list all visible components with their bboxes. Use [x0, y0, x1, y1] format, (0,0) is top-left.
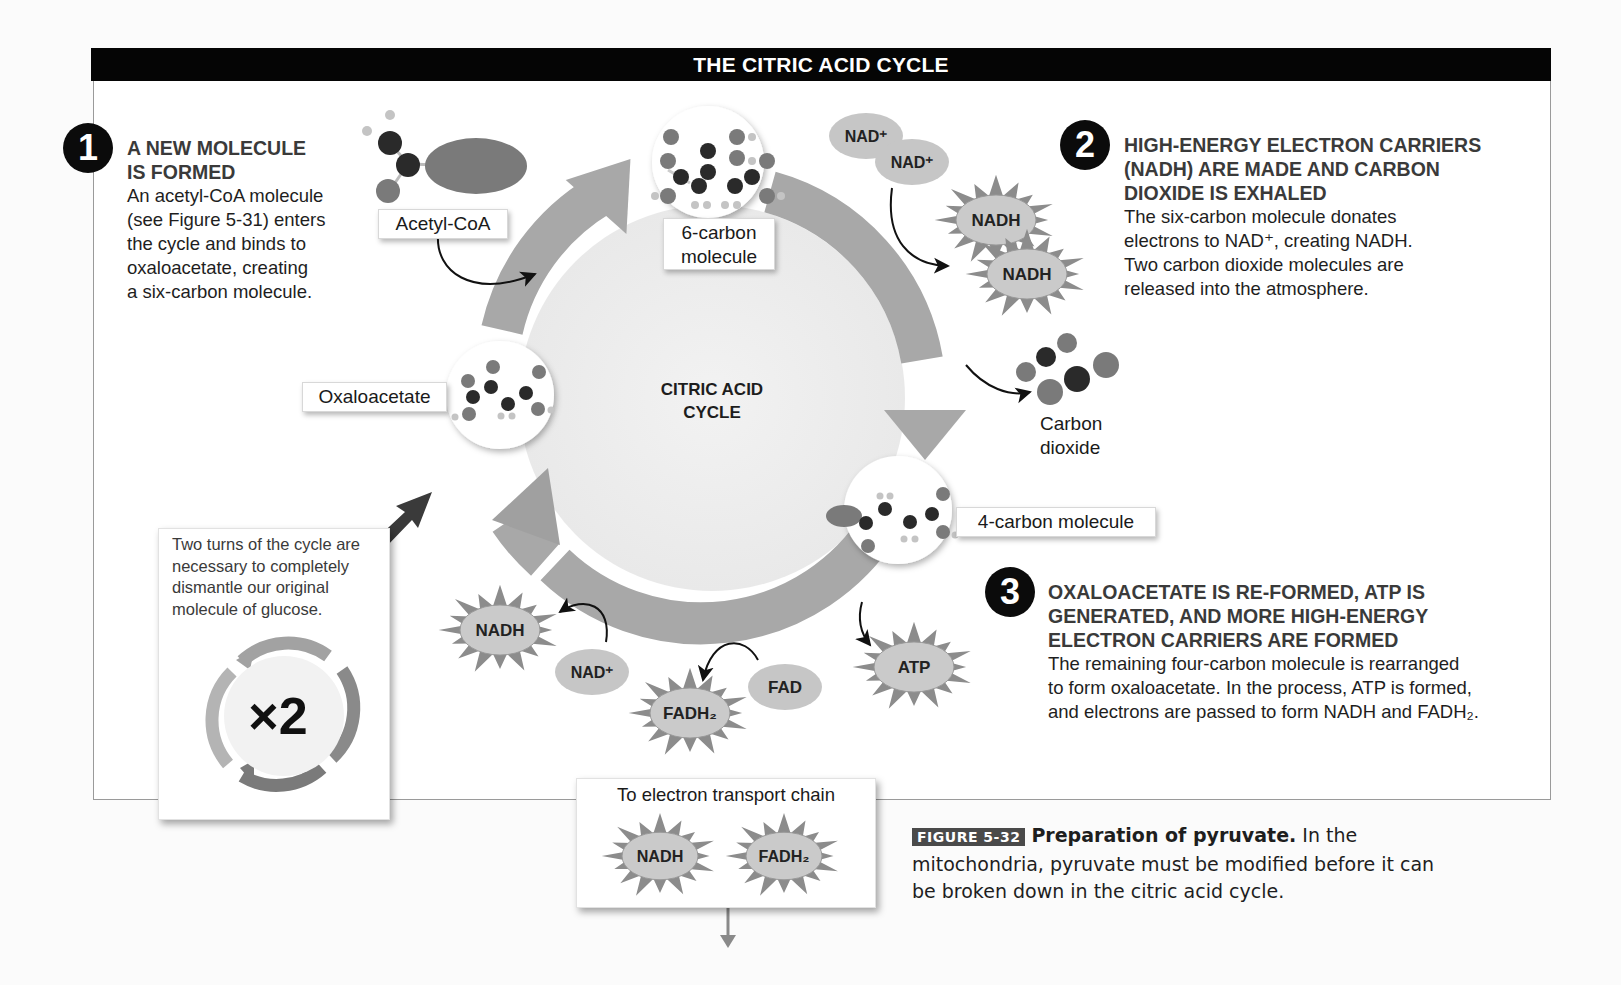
step-3-text: OXALOACETATE IS RE-FORMED, ATP IS GENERA… — [1048, 580, 1548, 724]
carbon-dioxide-line-2: dioxide — [1040, 436, 1102, 460]
caption-line-3: be broken down in the citric acid cycle. — [912, 878, 1552, 905]
step-1-body-line: the cycle and binds to — [127, 232, 367, 256]
six-carbon-molecule — [651, 106, 785, 218]
atp-arrow — [860, 602, 870, 645]
step-3-badge: 3 — [985, 567, 1035, 617]
step-1-heading: A NEW MOLECULE IS FORMED — [127, 136, 367, 184]
oxaloacetate-text: Oxaloacetate — [319, 386, 431, 407]
acetyl-coa-label: Acetyl-CoA — [378, 209, 508, 239]
etc-carriers: NADHFADH₂ — [576, 778, 876, 908]
step-2-body-line: The six-carbon molecule donates — [1124, 205, 1544, 229]
step-3-heading: OXALOACETATE IS RE-FORMED, ATP IS GENERA… — [1048, 580, 1548, 652]
carbon-dioxide-label: Carbon dioxide — [1040, 412, 1102, 460]
step-2-heading-line: DIOXIDE IS EXHALED — [1124, 181, 1544, 205]
multiplier-text: ×2 — [248, 687, 307, 745]
carrier-label: ATP — [898, 658, 931, 677]
step-2-body-line: Two carbon dioxide molecules are — [1124, 253, 1544, 277]
etc-nadh-burst: NADH — [602, 813, 714, 896]
center-label-line-2: CYCLE — [622, 401, 802, 424]
six-carbon-line-1: 6-carbon — [664, 221, 774, 245]
acetyl-coa-text: Acetyl-CoA — [395, 213, 490, 234]
carrier-label: FADH₂ — [758, 847, 809, 865]
carrier-label: FADH₂ — [663, 704, 717, 723]
step-2-number: 2 — [1075, 124, 1095, 165]
four-carbon-label: 4-carbon molecule — [956, 507, 1156, 537]
nad-plus-chip-3: NAD⁺ — [555, 649, 629, 695]
atp-burst: ATP — [853, 622, 971, 709]
step-1-body-line: a six-carbon molecule. — [127, 280, 367, 304]
step-2-body-line: electrons to NAD⁺, creating NADH. — [1124, 229, 1544, 253]
carrier-label: NADH — [971, 211, 1020, 230]
two-turns-multiplier: ×2 — [218, 686, 338, 746]
figure-tag: FIGURE 5-32 — [912, 828, 1025, 846]
caption-text: In the — [1296, 824, 1357, 846]
step-3-heading-line: GENERATED, AND MORE HIGH-ENERGY — [1048, 604, 1548, 628]
nadh-burst-3: NADH — [439, 585, 557, 672]
six-carbon-label: 6-carbon molecule — [663, 218, 775, 270]
step-1-badge: 1 — [63, 123, 113, 173]
svg-text:NAD⁺: NAD⁺ — [845, 128, 888, 145]
step-3-body-line: and electrons are passed to form NADH an… — [1048, 700, 1548, 724]
step-3-heading-line: OXALOACETATE IS RE-FORMED, ATP IS — [1048, 580, 1548, 604]
fadh2-burst: FADH₂ — [629, 668, 747, 755]
center-label-line-1: CITRIC ACID — [622, 378, 802, 401]
carrier-label: NADH — [1002, 265, 1051, 284]
nad-plus-chip-2: NAD⁺ — [875, 139, 949, 185]
figure-caption: FIGURE 5-32 Preparation of pyruvate. In … — [912, 822, 1552, 905]
caption-line-2: mitochondria, pyruvate must be modified … — [912, 851, 1552, 878]
step-2-badge: 2 — [1060, 120, 1110, 170]
four-carbon-text: 4-carbon molecule — [978, 511, 1134, 532]
step-1-text: A NEW MOLECULE IS FORMED An acetyl-CoA m… — [127, 136, 367, 304]
oxaloacetate-molecule — [446, 341, 555, 449]
step-3-body-line: to form oxaloacetate. In the process, AT… — [1048, 676, 1548, 700]
step-1-body-line: oxaloacetate, creating — [127, 256, 367, 280]
step-2-text: HIGH-ENERGY ELECTRON CARRIERS (NADH) ARE… — [1124, 133, 1544, 301]
fad-to-fadh2-arrow — [703, 643, 758, 680]
svg-text:NAD⁺: NAD⁺ — [571, 664, 614, 681]
carrier-label: NADH — [637, 847, 684, 865]
step-1-number: 1 — [78, 127, 98, 168]
oxaloacetate-label: Oxaloacetate — [302, 382, 447, 412]
step-3-heading-line: ELECTRON CARRIERS ARE FORMED — [1048, 628, 1548, 652]
svg-text:FAD: FAD — [768, 678, 802, 697]
step-1-heading-line: A NEW MOLECULE — [127, 136, 367, 160]
acetyl-coa-molecule — [362, 110, 527, 203]
etc-arrowhead-icon — [720, 935, 736, 948]
step-1-body: An acetyl-CoA molecule (see Figure 5-31)… — [127, 184, 367, 304]
caption-line-1: FIGURE 5-32 Preparation of pyruvate. In … — [912, 822, 1552, 851]
step-2-body-line: released into the atmosphere. — [1124, 277, 1544, 301]
caption-bold: Preparation of pyruvate. — [1031, 824, 1296, 846]
step-2-heading-line: (NADH) ARE MADE AND CARBON — [1124, 157, 1544, 181]
step-2-heading: HIGH-ENERGY ELECTRON CARRIERS (NADH) ARE… — [1124, 133, 1544, 205]
six-carbon-line-2: molecule — [664, 245, 774, 269]
step-3-body-line: The remaining four-carbon molecule is re… — [1048, 652, 1548, 676]
carrier-label: NADH — [475, 621, 524, 640]
step-2-heading-line: HIGH-ENERGY ELECTRON CARRIERS — [1124, 133, 1544, 157]
step-2-body: The six-carbon molecule donates electron… — [1124, 205, 1544, 301]
step-3-body: The remaining four-carbon molecule is re… — [1048, 652, 1548, 724]
two-turns-cycle-graphic — [158, 528, 390, 820]
step-1-heading-line: IS FORMED — [127, 160, 367, 184]
step-3-number: 3 — [1000, 571, 1020, 612]
svg-text:NAD⁺: NAD⁺ — [891, 154, 934, 171]
step-1-body-line: (see Figure 5-31) enters — [127, 208, 367, 232]
nad-to-nadh-arrow-top — [891, 188, 948, 266]
carbon-dioxide-molecules — [1016, 333, 1119, 405]
fad-chip: FAD — [748, 664, 822, 710]
step-1-body-line: An acetyl-CoA molecule — [127, 184, 367, 208]
carbon-dioxide-line-1: Carbon — [1040, 412, 1102, 436]
etc-fadh2-burst: FADH₂ — [726, 813, 838, 896]
cycle-center-label: CITRIC ACID CYCLE — [622, 378, 802, 424]
